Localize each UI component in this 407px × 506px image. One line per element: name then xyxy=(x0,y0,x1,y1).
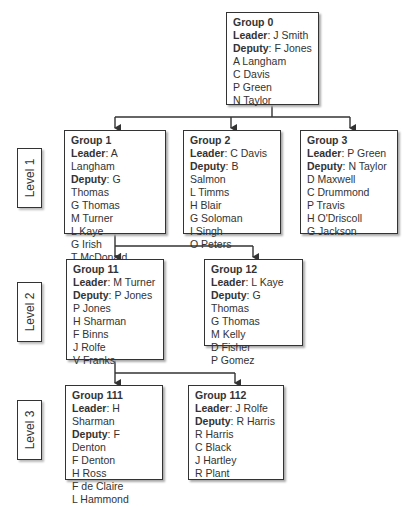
deputy-name: R Harris xyxy=(236,415,275,427)
member-name: D Fisher xyxy=(211,341,296,354)
member-name: A Langham xyxy=(233,55,312,68)
member-name: N Taylor xyxy=(233,94,312,107)
deputy-row: Deputy: F Denton xyxy=(72,428,156,454)
level-text: Level 2 xyxy=(23,293,37,332)
deputy-name: P Jones xyxy=(114,289,152,301)
member-name: G Irish xyxy=(71,238,159,251)
deputy-name: N Taylor xyxy=(348,160,386,172)
leader-name: C Davis xyxy=(230,147,267,159)
member-name: C Davis xyxy=(233,68,312,81)
deputy-label: Deputy xyxy=(195,415,231,427)
member-name: F Denton xyxy=(72,454,156,467)
member-name: V Franks xyxy=(73,354,157,367)
level-text: Level 3 xyxy=(23,411,37,450)
deputy-label: Deputy xyxy=(71,173,107,185)
member-name: R Harris xyxy=(195,428,277,441)
member-name: M Turner xyxy=(71,212,159,225)
member-name: J Rolfe xyxy=(73,341,157,354)
member-name: L Timms xyxy=(190,186,274,199)
deputy-row: Deputy: N Taylor xyxy=(307,160,391,173)
member-name: G Thomas xyxy=(211,315,296,328)
leader-label: Leader xyxy=(72,402,106,414)
member-name: G Jackson xyxy=(307,225,391,238)
group-title: Group 0 xyxy=(233,16,312,29)
deputy-label: Deputy xyxy=(233,42,269,54)
leader-label: Leader xyxy=(73,276,107,288)
group-title: Group 2 xyxy=(190,134,274,147)
member-name: F Binns xyxy=(73,328,157,341)
leader-label: Leader xyxy=(71,147,105,159)
deputy-label: Deputy xyxy=(307,160,343,172)
level-1-label: Level 1 xyxy=(17,148,42,208)
member-name: L Hammond xyxy=(72,493,156,506)
member-name: L Kaye xyxy=(71,225,159,238)
leader-label: Leader xyxy=(190,147,224,159)
level-text: Level 1 xyxy=(23,159,37,198)
member-name: C Drummond xyxy=(307,186,391,199)
member-name: R Plant xyxy=(195,467,277,480)
group-title: Group 11 xyxy=(73,263,157,276)
level-3-label: Level 3 xyxy=(17,400,42,460)
group-title: Group 111 xyxy=(72,389,156,402)
deputy-row: Deputy: F Jones xyxy=(233,42,312,55)
member-name: H Ross xyxy=(72,467,156,480)
member-name: G Soloman xyxy=(190,212,274,225)
leader-row: Leader: P Green xyxy=(307,147,391,160)
level-2-label: Level 2 xyxy=(17,282,42,342)
deputy-row: Deputy: B Salmon xyxy=(190,160,274,186)
member-name: P Jones xyxy=(73,302,157,315)
leader-row: Leader: L Kaye xyxy=(211,276,296,289)
group-111-box: Group 111Leader: H SharmanDeputy: F Dent… xyxy=(65,385,163,480)
deputy-label: Deputy xyxy=(72,428,108,440)
leader-row: Leader: J Smith xyxy=(233,29,312,42)
member-name: P Travis xyxy=(307,199,391,212)
deputy-row: Deputy: G Thomas xyxy=(211,289,296,315)
group-12-box: Group 12Leader: L KayeDeputy: G ThomasG … xyxy=(204,259,303,346)
group-2-box: Group 2Leader: C DavisDeputy: B SalmonL … xyxy=(183,130,281,234)
group-112-box: Group 112Leader: J RolfeDeputy: R Harris… xyxy=(188,385,284,480)
deputy-name: F Jones xyxy=(274,42,311,54)
leader-row: Leader: C Davis xyxy=(190,147,274,160)
deputy-label: Deputy xyxy=(211,289,247,301)
group-title: Group 112 xyxy=(195,389,277,402)
leader-row: Leader: J Rolfe xyxy=(195,402,277,415)
leader-name: P Green xyxy=(347,147,386,159)
leader-label: Leader xyxy=(233,29,267,41)
member-name: G Thomas xyxy=(71,199,159,212)
member-name: O Peters xyxy=(190,238,274,251)
group-title: Group 1 xyxy=(71,134,159,147)
member-name: F de Claire xyxy=(72,480,156,493)
deputy-row: Deputy: P Jones xyxy=(73,289,157,302)
group-11-box: Group 11Leader: M TurnerDeputy: P JonesP… xyxy=(66,259,164,360)
deputy-row: Deputy: R Harris xyxy=(195,415,277,428)
leader-label: Leader xyxy=(211,276,245,288)
group-3-box: Group 3Leader: P GreenDeputy: N TaylorD … xyxy=(300,130,398,234)
group-0-box: Group 0Leader: J SmithDeputy: F JonesA L… xyxy=(226,12,319,105)
leader-name: J Smith xyxy=(273,29,308,41)
member-name: H Sharman xyxy=(73,315,157,328)
member-name: D Maxwell xyxy=(307,173,391,186)
leader-name: M Turner xyxy=(113,276,155,288)
member-name: H Blair xyxy=(190,199,274,212)
deputy-row: Deputy: G Thomas xyxy=(71,173,159,199)
member-name: J Hartley xyxy=(195,454,277,467)
member-name: P Green xyxy=(233,81,312,94)
member-name: M Kelly xyxy=(211,328,296,341)
member-name: C Black xyxy=(195,441,277,454)
group-1-box: Group 1Leader: A LanghamDeputy: G Thomas… xyxy=(64,130,166,234)
deputy-label: Deputy xyxy=(73,289,109,301)
leader-label: Leader xyxy=(195,402,229,414)
leader-row: Leader: H Sharman xyxy=(72,402,156,428)
leader-label: Leader xyxy=(307,147,341,159)
leader-name: J Rolfe xyxy=(235,402,268,414)
group-title: Group 3 xyxy=(307,134,391,147)
deputy-label: Deputy xyxy=(190,160,226,172)
member-name: I Singh xyxy=(190,225,274,238)
group-title: Group 12 xyxy=(211,263,296,276)
member-name: H O'Driscoll xyxy=(307,212,391,225)
leader-row: Leader: M Turner xyxy=(73,276,157,289)
leader-row: Leader: A Langham xyxy=(71,147,159,173)
member-name: P Gomez xyxy=(211,354,296,367)
leader-name: L Kaye xyxy=(251,276,283,288)
